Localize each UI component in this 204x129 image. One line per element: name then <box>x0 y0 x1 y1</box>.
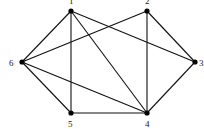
edge-1-6 <box>22 11 71 62</box>
edge-2-3 <box>147 11 195 62</box>
node-3 <box>192 59 197 64</box>
edge-2-6 <box>22 11 147 62</box>
node-label-2: 2 <box>145 0 150 6</box>
node-label-6: 6 <box>9 58 14 68</box>
graph-canvas: 123456 <box>0 0 204 129</box>
label-group: 123456 <box>9 0 204 129</box>
node-2 <box>144 8 149 13</box>
edge-4-3 <box>147 62 195 113</box>
node-1 <box>68 8 73 13</box>
edge-group <box>22 11 195 113</box>
node-4 <box>144 110 149 115</box>
node-label-3: 3 <box>199 58 204 68</box>
node-5 <box>68 110 73 115</box>
node-label-4: 4 <box>145 119 150 129</box>
node-label-1: 1 <box>69 0 74 6</box>
edge-6-5 <box>22 62 71 113</box>
node-label-5: 5 <box>68 119 73 129</box>
node-6 <box>19 59 24 64</box>
